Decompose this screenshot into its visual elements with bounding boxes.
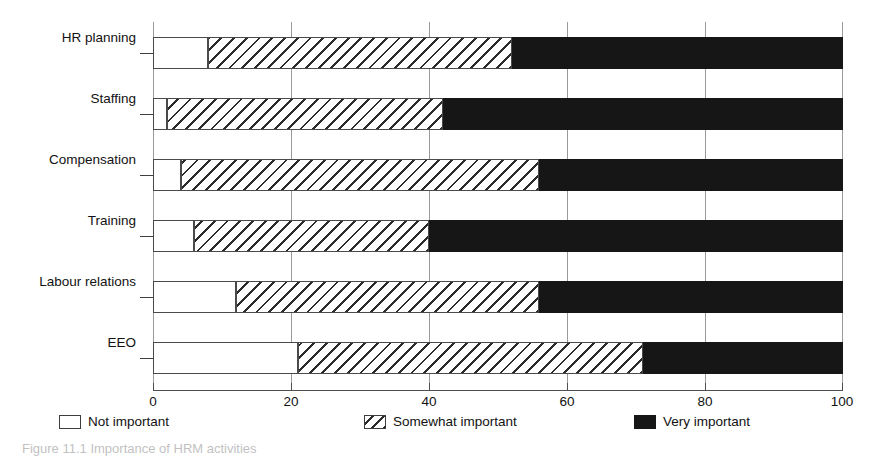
x-axis-ticklabel: 40 [421, 394, 436, 409]
bar-segment-somewhat-important [236, 281, 540, 313]
category-tick [140, 53, 153, 54]
x-axis-ticklabel: 100 [831, 394, 854, 409]
bar-segment-very-important [429, 220, 843, 252]
gridline-60 [567, 22, 568, 390]
bar-segment-not-important [153, 281, 236, 313]
x-axis-ticklabel: 0 [149, 394, 157, 409]
x-axis-tick [567, 383, 568, 391]
legend-label: Very important [663, 414, 750, 429]
bar-row [153, 37, 843, 69]
x-axis-ticklabel: 20 [283, 394, 298, 409]
chart-legend: Not important Somewhat important Very im… [0, 414, 877, 436]
category-label-hr-planning: HR planning [62, 31, 136, 45]
figure-caption-text: Figure 11.1 Importance of HRM activities [22, 444, 662, 456]
bar-segment-somewhat-important [298, 342, 643, 374]
x-axis-line [153, 390, 843, 391]
gridline-20 [291, 22, 292, 390]
plot-area [153, 22, 843, 390]
bar-segment-very-important [643, 342, 843, 374]
bar-row [153, 159, 843, 191]
x-axis-tick [291, 383, 292, 391]
category-label-compensation: Compensation [49, 153, 136, 167]
category-label-eeo: EEO [107, 336, 136, 350]
bar-row [153, 220, 843, 252]
bar-row [153, 342, 843, 374]
legend-label: Not important [88, 414, 169, 429]
bar-segment-not-important [153, 342, 298, 374]
bar-segment-very-important [539, 159, 843, 191]
bar-row [153, 281, 843, 313]
gridline-100 [842, 22, 843, 390]
stacked-bar-chart: HR planning Staffing Compensation Traini… [0, 0, 877, 456]
bar-segment-not-important [153, 98, 167, 130]
bar-row [153, 98, 843, 130]
x-axis-ticklabel: 80 [697, 394, 712, 409]
white-swatch-icon [59, 415, 81, 429]
gridline-80 [705, 22, 706, 390]
category-label-training: Training [88, 214, 136, 228]
bar-segment-very-important [443, 98, 843, 130]
gridline-40 [429, 22, 430, 390]
bar-segment-not-important [153, 220, 194, 252]
legend-item-somewhat-important: Somewhat important [364, 414, 517, 429]
bar-segment-somewhat-important [208, 37, 512, 69]
figure-caption: Figure 11.1 Importance of HRM activities [22, 444, 662, 456]
black-swatch-icon [634, 415, 656, 429]
category-tick [140, 297, 153, 298]
x-axis-tick [705, 383, 706, 391]
category-tick [140, 358, 153, 359]
category-tick [140, 236, 153, 237]
bar-segment-somewhat-important [181, 159, 540, 191]
bar-segment-very-important [539, 281, 843, 313]
hatched-swatch-icon [364, 415, 386, 429]
bar-segment-not-important [153, 159, 181, 191]
bar-segment-somewhat-important [167, 98, 443, 130]
bar-segment-somewhat-important [194, 220, 429, 252]
x-axis-tick [842, 383, 843, 391]
category-label-staffing: Staffing [90, 92, 136, 106]
bar-segment-not-important [153, 37, 208, 69]
category-tick [140, 114, 153, 115]
legend-item-not-important: Not important [59, 414, 169, 429]
x-axis-ticklabel: 60 [559, 394, 574, 409]
legend-item-very-important: Very important [634, 414, 750, 429]
gridline-0 [153, 22, 154, 390]
x-axis-tick [153, 383, 154, 391]
category-tick [140, 175, 153, 176]
category-label-labour-relations: Labour relations [39, 275, 136, 289]
x-axis-tick [429, 383, 430, 391]
legend-label: Somewhat important [393, 414, 517, 429]
category-axis-labels: HR planning Staffing Compensation Traini… [0, 0, 136, 390]
bar-segment-very-important [512, 37, 843, 69]
